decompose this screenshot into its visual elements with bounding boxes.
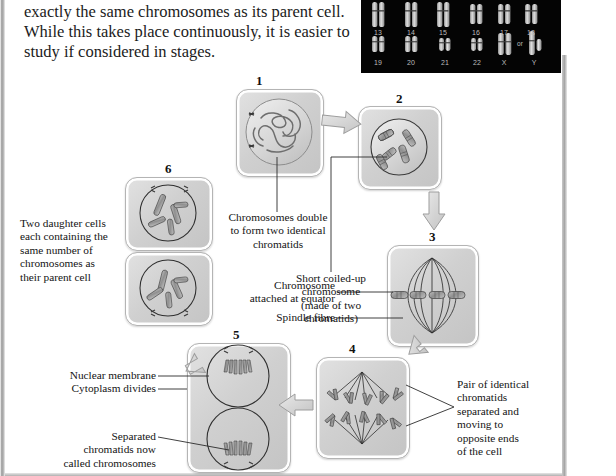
arrow-5-to-6 [181, 353, 206, 380]
karyotype-label-15: 15 [439, 29, 447, 36]
stage-1-artwork [246, 99, 312, 212]
stage-5-artwork [158, 345, 269, 470]
label-cytoplasm-divides: Cytoplasm divides [36, 382, 156, 395]
arrow-4-to-5 [279, 394, 313, 416]
label-pair-identical-chromatids: Pair of identical chromatids separated a… [457, 378, 561, 458]
arrow-2-to-3 [423, 192, 445, 230]
page-root: exactly the same chromosomes as its pare… [0, 0, 616, 476]
label-two-daughter-cells: Two daughter cells each containing the s… [20, 217, 125, 284]
karyotype-or-label: or [517, 40, 524, 47]
label-separated-chromatids: Separated chromatids now called chromoso… [36, 430, 156, 470]
intro-paragraph: exactly the same chromosomes as its pare… [24, 2, 354, 62]
label-chromosomes-double: Chromosomes double to form two identical… [204, 211, 352, 251]
label-chromosome-attached-equator: Chromosome attached at equator [211, 279, 335, 306]
arrow-3-to-4 [402, 335, 428, 362]
page-edge-right [562, 55, 567, 476]
stage-4-bracket-leader [406, 385, 454, 426]
karyotype-label-17: 17 [500, 29, 508, 36]
karyotype-label-16: 16 [472, 29, 480, 36]
karyotype-label-14: 14 [407, 29, 415, 36]
karyotype-label-18: 18 [527, 29, 535, 36]
arrow-1-to-2 [321, 109, 362, 135]
stage-5-separated-chromatids-leader [158, 437, 229, 450]
stage-6-artwork [140, 185, 196, 316]
label-nuclear-membrane: Nuclear membrane [36, 369, 156, 382]
stage-4-artwork [324, 372, 454, 444]
karyotype-label-13: 13 [374, 29, 382, 36]
mitosis-cycle-diagram: 1 2 3 4 5 6 [5, 62, 562, 474]
label-spindle-fibre: Spindle fibre [211, 311, 335, 324]
